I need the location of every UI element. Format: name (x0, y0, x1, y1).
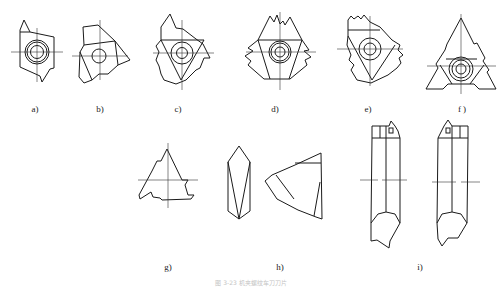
panel-b-label: b) (96, 104, 104, 114)
panel-i-tool-right (432, 120, 480, 246)
panel-g-label: g) (164, 262, 172, 272)
panel-e-label: e) (365, 104, 372, 114)
panel-d-insert (245, 12, 316, 90)
panel-d-label: d) (271, 104, 279, 114)
panel-a-insert (11, 20, 63, 82)
panel-f-insert (426, 14, 496, 94)
diagram-canvas (0, 0, 503, 287)
panel-f-label: f ) (458, 104, 466, 114)
panel-b-insert (72, 20, 130, 83)
panel-i-label: i) (417, 262, 423, 272)
panel-e-insert (337, 15, 403, 86)
panel-a-label: a) (32, 104, 39, 114)
panel-g-insert (138, 143, 198, 208)
figure-caption: 图 3-23 机夹螺纹车刀刀片 (215, 278, 286, 287)
panel-i-tool-left (360, 121, 407, 248)
panel-h-label: h) (276, 262, 284, 272)
panel-h-elongated-insert (228, 146, 250, 219)
panel-c-label: c) (175, 104, 182, 114)
panel-c-insert (153, 14, 214, 90)
panel-h-triangle-insert (265, 153, 322, 219)
